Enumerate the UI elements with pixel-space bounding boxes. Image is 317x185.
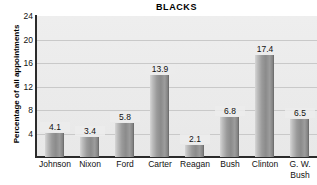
bar-value-label: 6.5 — [285, 108, 315, 118]
bar — [45, 133, 64, 157]
x-axis-tick-label-line: G. W. — [277, 159, 317, 170]
x-axis-tick-labels: JohnsonNixonFordCarterReaganBushClintonG… — [37, 159, 317, 185]
bar-value-label: 3.4 — [75, 126, 105, 136]
bar — [80, 137, 99, 157]
bar-value-label: 17.4 — [250, 44, 280, 54]
y-axis-tick-label: 8 — [17, 106, 33, 115]
bar — [290, 119, 309, 157]
bar-value-label: 6.8 — [215, 106, 245, 116]
y-axis-tick-label: 16 — [17, 59, 33, 68]
y-axis-tick-label: 24 — [17, 12, 33, 21]
bar-chart: BLACKS Percentage of all appointments 24… — [0, 0, 317, 185]
y-axis-tick-label: 20 — [17, 36, 33, 45]
bar — [115, 123, 134, 157]
bars-layer: 4.13.45.813.92.16.817.46.5 — [37, 16, 317, 157]
x-axis-tick-label-line: Bush — [277, 170, 317, 181]
y-axis-tick-labels: 2420161284 — [15, 0, 33, 185]
y-axis-tick-label: 12 — [17, 83, 33, 92]
bar — [150, 75, 169, 157]
bar — [185, 145, 204, 157]
chart-title: BLACKS — [36, 1, 317, 13]
bar — [220, 117, 239, 157]
bar-value-label: 5.8 — [110, 112, 140, 122]
x-axis-tick-label: G. W.Bush — [277, 159, 317, 181]
bar-value-label: 13.9 — [145, 64, 175, 74]
bar-value-label: 2.1 — [180, 134, 210, 144]
bar-value-label: 4.1 — [40, 122, 70, 132]
bar — [255, 55, 274, 157]
y-axis-tick-label: 4 — [17, 130, 33, 139]
